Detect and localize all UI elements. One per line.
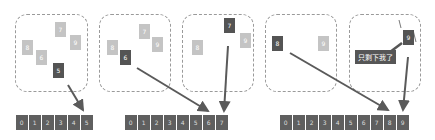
array-cell: 0 bbox=[280, 115, 292, 130]
output-array-1: 0 1 2 3 4 5 bbox=[16, 115, 93, 130]
card: 7 bbox=[139, 24, 150, 39]
arrow-icon bbox=[403, 57, 408, 110]
array-cell: 0 bbox=[16, 115, 28, 130]
array-cell: 5 bbox=[81, 115, 93, 130]
array-cell: 3 bbox=[55, 115, 67, 130]
card: 9 bbox=[240, 33, 251, 48]
array-cell: 9 bbox=[397, 115, 409, 130]
array-cell: 5 bbox=[190, 115, 202, 130]
arrow-icon bbox=[137, 68, 208, 111]
array-cell: 2 bbox=[42, 115, 54, 130]
card: 6 bbox=[36, 50, 47, 65]
card: 9 bbox=[152, 37, 163, 52]
output-array-3: 0 1 2 3 4 5 6 7 8 9 bbox=[280, 115, 409, 130]
array-cell: 6 bbox=[203, 115, 215, 130]
card: 9 bbox=[70, 35, 81, 50]
card-selected: 6 bbox=[120, 50, 131, 65]
array-cell: 3 bbox=[319, 115, 331, 130]
array-cell: 4 bbox=[177, 115, 189, 130]
arrow-icon bbox=[68, 85, 83, 110]
array-cell: 7 bbox=[371, 115, 383, 130]
card: 8 bbox=[107, 40, 118, 55]
array-cell: 2 bbox=[151, 115, 163, 130]
card-selected: 5 bbox=[53, 63, 64, 78]
array-cell: 7 bbox=[216, 115, 228, 130]
array-cell: 2 bbox=[306, 115, 318, 130]
card: 7 bbox=[55, 22, 66, 37]
array-cell: 1 bbox=[29, 115, 41, 130]
array-cell: 0 bbox=[125, 115, 137, 130]
array-cell: 6 bbox=[358, 115, 370, 130]
array-cell: 4 bbox=[332, 115, 344, 130]
array-cell: 3 bbox=[164, 115, 176, 130]
card-selected: 9 bbox=[403, 30, 414, 45]
card-selected: 7 bbox=[224, 18, 235, 33]
card: 8 bbox=[192, 40, 203, 55]
output-array-2: 0 1 2 3 4 5 6 7 bbox=[125, 115, 228, 130]
array-cell: 4 bbox=[68, 115, 80, 130]
array-cell: 5 bbox=[345, 115, 357, 130]
array-cell: 8 bbox=[384, 115, 396, 130]
arrow-icon bbox=[224, 46, 228, 111]
card: 9 bbox=[318, 36, 329, 51]
callout-label: 只剩下我了 bbox=[355, 50, 396, 64]
array-cell: 1 bbox=[293, 115, 305, 130]
array-cell: 1 bbox=[138, 115, 150, 130]
card-selected: 8 bbox=[272, 36, 283, 51]
card: 8 bbox=[22, 40, 33, 55]
